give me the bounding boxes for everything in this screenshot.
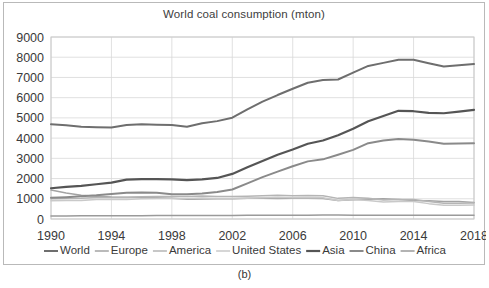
legend-item-africa[interactable]: Africa <box>401 244 447 256</box>
series-line-africa <box>51 215 474 216</box>
legend-label: Europe <box>111 244 148 256</box>
y-axis-tick-label: 1000 <box>16 192 44 206</box>
x-axis-tick-label: 2010 <box>339 229 367 243</box>
series-line-china <box>51 139 474 198</box>
x-axis-tick-label: 2006 <box>279 229 307 243</box>
figure-container: World coal consumption (mton) 0100020003… <box>0 0 489 288</box>
figure-caption: (b) <box>0 268 489 280</box>
y-axis-tick-label: 2000 <box>16 172 44 186</box>
series-line-world <box>51 60 474 128</box>
plot-border <box>51 37 474 219</box>
y-axis-tick-label: 6000 <box>16 91 44 105</box>
legend-item-china[interactable]: China <box>350 244 397 256</box>
legend-label: America <box>169 244 212 256</box>
x-axis-tick-label: 2002 <box>218 229 246 243</box>
legend-item-world[interactable]: World <box>44 244 90 256</box>
legend-label: Asia <box>322 244 345 256</box>
x-axis-tick-label: 2014 <box>400 229 428 243</box>
x-axis-tick-label: 1994 <box>98 229 126 243</box>
chart-frame: World coal consumption (mton) 0100020003… <box>3 2 485 265</box>
legend-item-europe[interactable]: Europe <box>95 244 148 256</box>
legend-label: World <box>60 244 90 256</box>
legend-item-asia[interactable]: Asia <box>306 244 345 256</box>
y-axis-tick-label: 4000 <box>16 132 44 146</box>
legend-label: United States <box>232 244 301 256</box>
legend-label: China <box>366 244 397 256</box>
y-axis-tick-label: 8000 <box>16 51 44 65</box>
legend-label: Africa <box>417 244 447 256</box>
legend-item-america[interactable]: America <box>153 244 212 256</box>
y-axis-tick-label: 7000 <box>16 71 44 85</box>
y-axis-tick-label: 9000 <box>16 31 44 45</box>
x-axis-tick-label: 2018 <box>460 229 486 243</box>
y-axis-tick-label: 0 <box>37 213 44 227</box>
y-axis-tick-label: 3000 <box>16 152 44 166</box>
chart-plot: 0100020003000400050006000700080009000199… <box>4 3 486 266</box>
x-axis-tick-label: 1990 <box>37 229 65 243</box>
y-axis-tick-label: 5000 <box>16 111 44 125</box>
legend-item-united-states[interactable]: United States <box>216 244 301 256</box>
x-axis-tick-label: 1998 <box>158 229 186 243</box>
